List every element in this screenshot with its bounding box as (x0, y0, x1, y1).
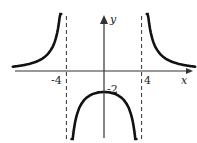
y-axis-label: y (109, 13, 117, 26)
series-right-branch (147, 14, 195, 67)
x-tick-label-neg4: -4 (51, 74, 62, 87)
x-axis-label: x (181, 74, 188, 87)
y-tick-label-neg2: -2 (107, 83, 118, 96)
series-left-branch (13, 14, 61, 67)
chart: x y -4 4 -2 (0, 0, 197, 143)
y-axis-arrow-icon (100, 15, 108, 24)
x-tick-label-4: 4 (144, 74, 151, 87)
